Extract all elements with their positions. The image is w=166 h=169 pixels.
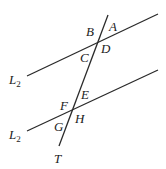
transversal-label: T [54,151,62,166]
bottom-line-label: L2 [8,127,21,144]
diagram-canvas: A B D C E F H G L2 L2 T [0,0,166,169]
angle-label-d: D [100,41,111,56]
angle-label-f: F [59,98,69,113]
angle-label-c: C [80,50,89,65]
angle-label-h: H [74,111,85,126]
parallel-lines-transversal-diagram: A B D C E F H G L2 L2 T [0,0,166,169]
angle-label-g: G [54,119,64,134]
top-line-label: L2 [8,72,21,89]
bottom-line [27,70,158,131]
transversal-line [59,15,108,146]
angle-label-e: E [80,87,89,102]
angle-label-b: B [86,24,94,39]
angle-label-a: A [108,19,117,34]
